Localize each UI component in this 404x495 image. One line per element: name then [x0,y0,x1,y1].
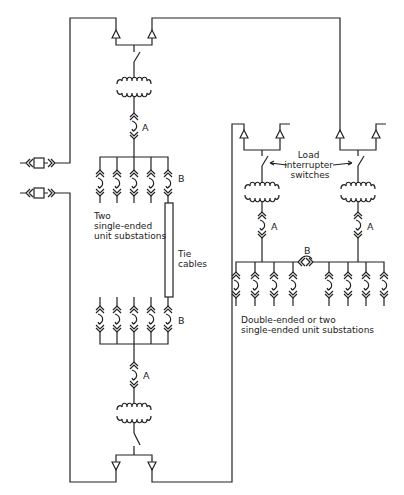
svg-text:A: A [367,221,374,232]
source-connector-lower [20,188,62,198]
right-substation-section-1: A [232,124,297,306]
switch-icon [134,433,140,445]
load-interrupter-label: Load interrupter switches [270,150,352,180]
svg-text:A: A [271,221,278,232]
connector-b-label-lower: B [178,315,185,326]
one-line-diagram: A B Two single-ended unit substations Ti… [0,0,404,495]
svg-text:Load interrupter s: Load interrupter switches [284,150,336,180]
svg-text:B: B [304,245,311,256]
right-substation-label: Double-ended or two single-ended unit su… [241,315,374,335]
connector-b-label: B [178,173,185,184]
feeder-connectors [96,170,172,196]
switch-icon [134,52,140,62]
tie-cable [165,203,173,297]
connector-a-label: A [142,122,149,133]
right-substation-section-2: A [318,124,388,306]
source-connector-upper [20,158,62,168]
upper-left-unit-substation: A B [96,30,185,203]
tie-cables-label: Tie cables [177,249,207,269]
switch-icon [262,156,268,166]
connector-a-label-lower: A [143,370,150,381]
switch-icon [358,156,364,166]
right-substation-tie: B [293,245,318,266]
left-substation-label: Two single-ended unit substations [93,211,166,241]
lower-left-unit-substation: B A [96,297,185,470]
left-primary-loop [62,18,340,482]
